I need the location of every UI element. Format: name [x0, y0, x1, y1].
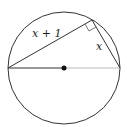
right-angle-marker	[85, 24, 96, 31]
label-x-plus-1: x + 1	[32, 27, 61, 40]
label-x: x	[96, 40, 103, 53]
circle-diagram: x + 1 x	[0, 0, 127, 127]
center-dot	[62, 66, 67, 71]
